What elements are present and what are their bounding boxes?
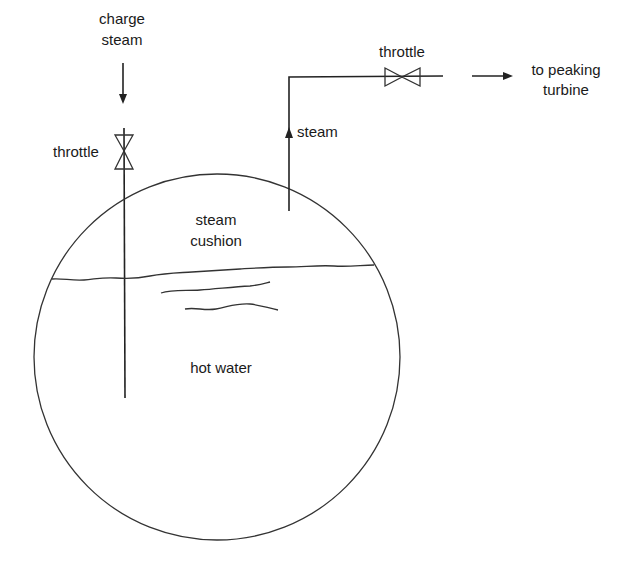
destination-label-line1: to peaking [531, 61, 600, 78]
steam-cushion-label-line2: cushion [190, 232, 242, 249]
steam-accumulator-diagram: charge steam throttle steam cushion hot … [0, 0, 633, 567]
charge-steam-label-line1: charge [99, 10, 145, 27]
steam-cushion-label-line1: steam [196, 211, 237, 228]
waterline [52, 265, 374, 280]
hot-water-label: hot water [190, 359, 252, 376]
charge-steam-arrow-icon [119, 63, 127, 104]
water-ripple-2 [185, 304, 278, 310]
outlet-steam-label: steam [297, 123, 338, 140]
destination-label-line2: turbine [543, 81, 589, 98]
water-ripple-1 [161, 282, 270, 293]
outlet-steam-arrow-icon [285, 127, 293, 138]
outlet-pipe [289, 76, 443, 211]
outlet-throttle-label: throttle [379, 43, 425, 60]
charge-steam-label-line2: steam [102, 31, 143, 48]
inlet-throttle-label: throttle [53, 143, 99, 160]
accumulator-vessel [34, 174, 400, 540]
to-turbine-arrow-icon [472, 72, 513, 80]
